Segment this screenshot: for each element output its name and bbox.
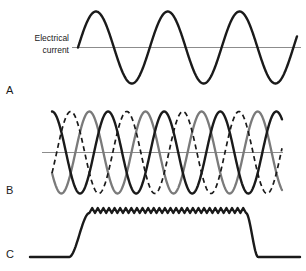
waveform-figure: Electrical current A B C [0,0,306,271]
panel-label-a: A [6,84,14,96]
panel-label-b: B [6,184,13,196]
axis-label-line1: Electrical [35,33,70,43]
axis-label-line2: current [43,45,70,55]
panel-label-c: C [6,248,14,260]
